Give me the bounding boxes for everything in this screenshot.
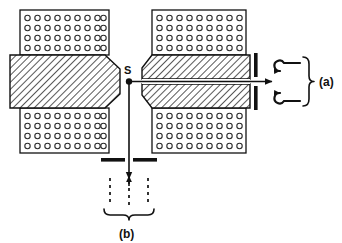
figure-root: (a) S (b) [0,0,342,243]
pole-piece-right-upper [142,55,250,79]
coil-winding-top-right [152,10,246,55]
label-source: S [124,64,131,76]
label-branch-a: (a) [319,75,334,89]
coil-winding-bottom-left [20,108,109,153]
coil-winding-bottom-right [152,108,246,153]
pole-piece-right-lower [142,84,250,108]
label-branch-b: (b) [119,227,134,241]
coil-winding-top-left [20,10,109,55]
diagram-canvas: (a) S (b) [0,0,342,243]
pole-piece-left [10,55,120,108]
